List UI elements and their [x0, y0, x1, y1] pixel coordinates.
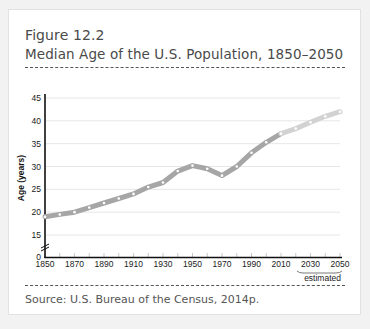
y-tick-label: 45 [32, 93, 42, 103]
line-chart: 015202530354045 185018701890191019301950… [0, 0, 370, 329]
data-point [206, 167, 209, 170]
x-tick-label: 1850 [36, 259, 55, 269]
x-tick-label: 1890 [95, 259, 114, 269]
x-tick-label: 1990 [242, 259, 261, 269]
data-point [339, 110, 342, 113]
data-point [88, 206, 91, 209]
y-tick-label: 20 [32, 207, 42, 217]
y-axis-label: Age (years) [16, 155, 26, 201]
data-point [294, 127, 297, 130]
y-tick-label: 25 [32, 184, 42, 194]
x-axis-ticks: 1850187018901910193019501970199020102030… [36, 253, 350, 269]
data-point [73, 211, 76, 214]
data-point [324, 115, 327, 118]
y-axis-ticks: 015202530354045 [32, 93, 42, 262]
data-point [162, 181, 165, 184]
x-tick-label: 1910 [124, 259, 143, 269]
data-point [58, 213, 61, 216]
x-tick-label: 2010 [272, 259, 291, 269]
x-tick-label: 2030 [301, 259, 320, 269]
data-point [280, 132, 283, 135]
data-point [235, 165, 238, 168]
data-point [103, 202, 106, 205]
data-point [176, 170, 179, 173]
data-point [44, 215, 47, 218]
data-point [117, 197, 120, 200]
actual-line [45, 134, 281, 217]
y-tick-label: 30 [32, 162, 42, 172]
data-point [147, 186, 150, 189]
data-point [132, 193, 135, 196]
x-tick-label: 1970 [213, 259, 232, 269]
data-point [309, 121, 312, 124]
data-point [191, 164, 194, 167]
y-tick-label: 15 [32, 230, 42, 240]
bottom-divider [25, 285, 345, 286]
estimated-label: estimated [304, 273, 341, 283]
data-point [250, 152, 253, 155]
y-tick-label: 40 [32, 116, 42, 126]
data-point [265, 141, 268, 144]
data-point [221, 174, 224, 177]
x-tick-label: 2050 [331, 259, 350, 269]
y-tick-label: 35 [32, 139, 42, 149]
median-age-series [44, 110, 342, 218]
x-tick-label: 1870 [65, 259, 84, 269]
x-tick-label: 1930 [154, 259, 173, 269]
source-note: Source: U.S. Bureau of the Census, 2014p… [25, 293, 259, 306]
x-tick-label: 1950 [183, 259, 202, 269]
